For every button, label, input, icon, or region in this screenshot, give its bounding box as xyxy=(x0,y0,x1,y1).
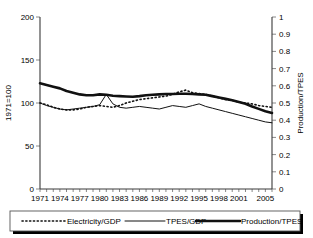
x-axis-tick-label: 1998 xyxy=(210,194,228,203)
x-axis-tick-label: 1989 xyxy=(150,194,168,203)
x-axis-tick-label: 1986 xyxy=(131,194,149,203)
legend-label-production-tpes: Production/TPES xyxy=(241,217,302,226)
y-axis-right-tick-label: 0.4 xyxy=(279,116,291,125)
y-axis-left-tick-label: 50 xyxy=(25,142,34,151)
x-axis-tick-label: 1992 xyxy=(170,194,188,203)
chart-figure: 050100150200 00.10.20.30.40.50.60.70.80.… xyxy=(0,0,313,238)
y-axis-right-title: Production/TPES xyxy=(296,72,305,133)
y-axis-left-tick-label: 0 xyxy=(30,185,35,194)
y-axis-left-tick-label: 200 xyxy=(21,13,35,22)
x-axis-tick-label: 2001 xyxy=(230,194,248,203)
x-axis-tick-label: 1980 xyxy=(91,194,109,203)
y-axis-right-tick-label: 0.3 xyxy=(279,133,291,142)
y-axis-right-tick-label: 0.6 xyxy=(279,82,291,91)
y-axis-right-tick-label: 0.8 xyxy=(279,47,291,56)
x-axis-tick-label: 1974 xyxy=(51,194,69,203)
x-axis-tick-label: 1977 xyxy=(71,194,89,203)
legend-label-electricity-gdp: Electricity/GDP xyxy=(67,217,121,226)
x-axis-tick-label: 1995 xyxy=(190,194,208,203)
y-axis-right-tick-label: 1 xyxy=(279,13,284,22)
x-axis-tick-label: 2005 xyxy=(256,194,274,203)
y-axis-right-tick-label: 0.2 xyxy=(279,151,291,160)
y-axis-right-tick-label: 0.5 xyxy=(279,99,291,108)
y-axis-left-title: 1971=100 xyxy=(4,85,13,121)
chart-legend: Electricity/GDPTPES/GDPProduction/TPES xyxy=(10,211,303,234)
x-axis-ticks: 1971197419771980198319861989199219951998… xyxy=(31,194,275,203)
y-axis-right-tick-label: 0.7 xyxy=(279,65,291,74)
y-axis-right-tick-label: 0 xyxy=(279,185,284,194)
x-axis-tick-label: 1971 xyxy=(31,194,49,203)
y-axis-right-tick-label: 0.9 xyxy=(279,30,291,39)
y-axis-left-tick-label: 150 xyxy=(21,56,35,65)
y-axis-left-tick-label: 100 xyxy=(21,99,35,108)
x-axis-tick-label: 1983 xyxy=(111,194,129,203)
y-axis-right-tick-label: 0.1 xyxy=(279,168,291,177)
